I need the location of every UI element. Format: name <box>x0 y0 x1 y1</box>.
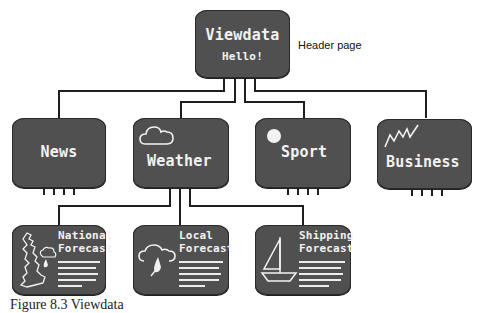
node-national-forecast: National Forecast <box>12 225 106 295</box>
national-line1: National <box>58 229 113 242</box>
node-local-forecast: Local Forecast <box>133 225 229 295</box>
figure-caption: Figure 8.3 Viewdata <box>10 297 124 313</box>
node-sport: Sport <box>255 118 351 188</box>
node-shipping-forecast: Shipping Forecast <box>255 225 351 295</box>
business-label: Business <box>386 153 460 171</box>
sport-label: Sport <box>281 143 327 161</box>
sailboat-icon <box>260 235 298 285</box>
node-header-page: Viewdata Hello! <box>195 10 290 78</box>
node-weather: Weather <box>133 118 229 188</box>
news-label: News <box>12 143 106 161</box>
national-line2: Forecast <box>58 242 113 255</box>
ball-icon <box>266 128 282 144</box>
zigzag-graph-icon <box>384 123 420 149</box>
header-title: Viewdata <box>195 26 290 44</box>
cloud-icon <box>139 124 175 146</box>
node-business: Business <box>377 119 472 189</box>
header-page-annotation: Header page <box>298 39 362 51</box>
local-line1: Local <box>179 229 213 242</box>
weather-label: Weather <box>147 152 212 170</box>
local-line2: Forecast <box>179 242 234 255</box>
uk-map-icon <box>17 231 59 289</box>
header-subtitle: Hello! <box>195 50 290 63</box>
shipping-line2: Forecast <box>299 242 354 255</box>
shipping-line1: Shipping <box>299 229 354 242</box>
rain-cloud-icon <box>138 243 176 277</box>
node-news: News <box>12 118 106 188</box>
